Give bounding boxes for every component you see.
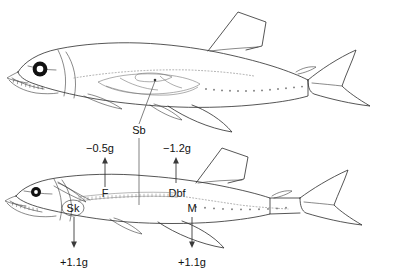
skeleton-label: Sk [67,202,80,214]
upper-anal-fin [168,105,232,132]
upper-operculum [58,50,66,96]
lower-pectoral-fin [54,183,86,202]
swim-bladder-point [154,79,157,82]
dbf-force-value: −1.2g [163,142,191,154]
upper-dorsal-fin [208,12,266,51]
fluid-force-value: −0.5g [86,142,114,154]
upper-swim-bladder [135,73,172,82]
fish-buoyancy-figure: Sb −0.5g −1.2g F Dbf [0,0,403,277]
upper-fish [7,12,370,132]
lower-peduncle [270,198,300,214]
muscle-label: M [187,202,196,214]
upper-eye-pupil [37,66,44,73]
muscle-force-value: +1.1g [178,256,206,268]
fluid-label: F [102,187,109,199]
lower-eye-pupil [34,190,38,194]
skeleton-force-arrow [71,217,77,248]
skeleton-force-value: +1.1g [60,256,88,268]
upper-body-outline [18,43,308,108]
swim-bladder-label: Sb [132,124,145,136]
upper-viscera-outline [98,74,200,94]
figure-canvas: Sb −0.5g −1.2g F Dbf [0,0,403,277]
lower-vertebral-band [78,192,178,201]
upper-photophore-row [205,86,303,92]
lower-caudal-fin [300,170,362,225]
upper-caudal-notch [312,83,342,86]
upper-gill-cover [66,52,76,98]
upper-caudal-fin [308,50,370,106]
lower-pelvic-fin [110,218,142,234]
upper-pectoral-fin [84,94,122,109]
upper-lateral-line [74,70,254,78]
lower-caudal-notch [304,202,334,205]
upper-adipose-fin [296,67,316,74]
upper-jaw-inner [12,78,44,89]
lower-adipose-fin [272,191,292,198]
lower-dorsal-fin [196,148,248,183]
muscle-force-arrow [189,217,195,248]
lower-operculum [54,179,62,220]
upper-teeth [13,79,42,90]
fluid-force-arrow [102,157,108,187]
